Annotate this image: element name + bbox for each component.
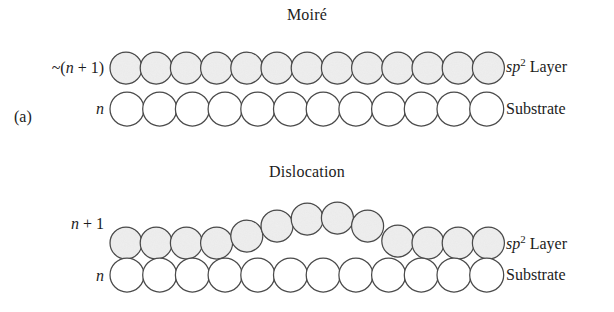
atom-row-a-substrate — [110, 92, 504, 126]
sp2-atom-stipple — [473, 53, 503, 83]
sp2-atom-stipple — [262, 211, 292, 241]
substrate-atom-circle — [339, 258, 373, 292]
substrate-atom-circle — [470, 258, 504, 292]
sp2-atom-stipple — [383, 53, 413, 83]
sp2-atom-stipple — [111, 53, 141, 83]
atom-row-a-sp2-layer — [110, 52, 504, 84]
sp2-atom-stipple — [413, 53, 443, 83]
sp2-atom-stipple — [443, 53, 473, 83]
substrate-atom-circle — [404, 258, 438, 292]
sp2-atom-stipple — [141, 53, 171, 83]
sp2-atom-stipple — [111, 228, 141, 258]
atom-row-b-sp2-layer — [110, 202, 504, 259]
sp2-atom-stipple — [473, 228, 503, 258]
substrate-atom-circle — [339, 92, 373, 126]
sp2-atom-stipple — [202, 53, 232, 83]
sp2-atom-stipple — [353, 53, 383, 83]
sp2-atom-stipple — [443, 228, 473, 258]
sp2-atom-stipple — [171, 228, 201, 258]
substrate-atom-circle — [208, 92, 242, 126]
substrate-atom-circle — [372, 92, 406, 126]
atom-row-b-substrate — [110, 258, 504, 292]
substrate-atom-circle — [175, 258, 209, 292]
substrate-atom-circle — [404, 92, 438, 126]
substrate-atom-circle — [437, 92, 471, 126]
substrate-atom-circle — [470, 92, 504, 126]
figure-root: Moiré (a) ~(n + 1) n sp2 Layer Substrate… — [0, 0, 614, 312]
sp2-atom-stipple — [322, 53, 352, 83]
sp2-atom-stipple — [322, 203, 352, 233]
substrate-atom-circle — [306, 92, 340, 126]
substrate-atom-circle — [208, 258, 242, 292]
substrate-atom-circle — [437, 258, 471, 292]
substrate-atom-circle — [306, 258, 340, 292]
substrate-atom-circle — [175, 92, 209, 126]
substrate-atom-circle — [274, 92, 308, 126]
sp2-atom-stipple — [202, 228, 232, 258]
substrate-atom-circle — [372, 258, 406, 292]
sp2-atom-stipple — [383, 226, 413, 256]
substrate-atom-circle — [143, 258, 177, 292]
sp2-atom-stipple — [292, 204, 322, 234]
substrate-atom-circle — [143, 92, 177, 126]
sp2-atom-stipple — [413, 228, 443, 258]
sp2-atom-stipple — [262, 53, 292, 83]
sp2-atom-stipple — [232, 221, 262, 251]
sp2-atom-stipple — [292, 53, 322, 83]
substrate-atom-circle — [241, 92, 275, 126]
sp2-atom-stipple — [171, 53, 201, 83]
sp2-atom-stipple — [353, 211, 383, 241]
sp2-atom-stipple — [232, 53, 262, 83]
sp2-atom-stipple — [141, 228, 171, 258]
substrate-atom-circle — [274, 258, 308, 292]
substrate-atom-circle — [110, 258, 144, 292]
substrate-atom-circle — [241, 258, 275, 292]
lattice-spheres — [0, 0, 614, 312]
substrate-atom-circle — [110, 92, 144, 126]
